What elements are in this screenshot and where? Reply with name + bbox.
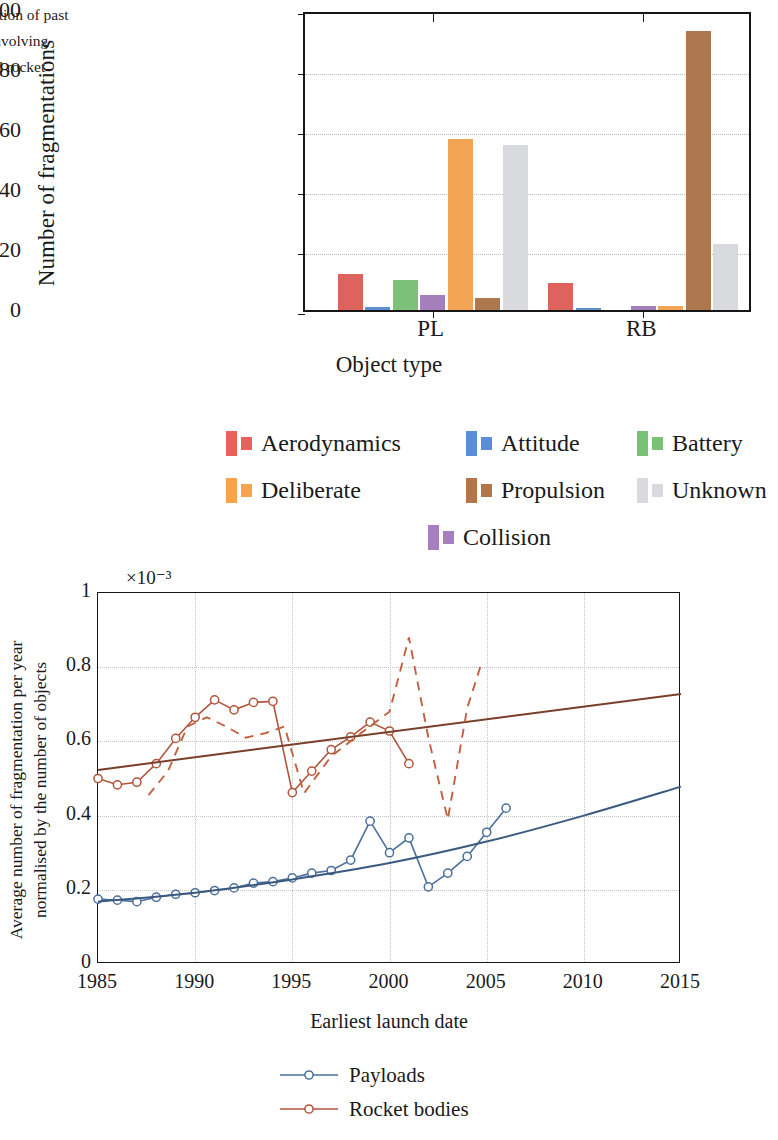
legend-swatch-small-icon [241,484,252,497]
legend-swatch-small-icon [443,531,454,544]
legend-label: Deliberate [261,477,361,504]
legend-item-battery[interactable]: Battery [637,430,743,457]
data-point-marker [288,788,296,796]
legend-swatch-tall-icon [226,478,237,503]
legend-label: Rocket bodies [349,1097,469,1122]
line-chart-y-tick-label: 1 [0,579,91,602]
data-point-marker [444,869,452,877]
data-point-marker [211,696,219,704]
bar-chart-plot-area [303,12,751,312]
data-point-marker [113,781,121,789]
legend-swatch-tall-icon [466,431,477,456]
line-chart-x-tick-label: 2000 [369,970,409,993]
data-point-marker [463,852,471,860]
bar-propulsion-pl [475,298,500,310]
legend-item-payloads[interactable]: Payloads [280,1058,778,1092]
line-chart-series-layer [98,593,681,964]
legend-swatch-small-icon [481,437,492,450]
bar-chart-y-tick-label: 100 [0,0,21,23]
bar-chart-x-tick-label-rb: RB [626,316,657,342]
series-rocket-bodies-dashed [149,638,481,820]
bar-chart-figure: Number of fragmentations Object type 020… [0,0,778,410]
bar-chart-x-tickmark-top [433,14,434,22]
legend-label: Propulsion [501,477,605,504]
bar-chart-y-tick-label: 40 [0,177,21,203]
data-point-marker [424,883,432,891]
bar-propulsion-rb [686,31,711,310]
legend-label: Aerodynamics [261,430,401,457]
line-chart-y-tick-label: 0.8 [0,653,91,676]
bar-chart-x-tickmark-top [643,14,644,22]
legend-item-aerodynamics[interactable]: Aerodynamics [226,430,401,457]
bar-chart-gridline [305,74,749,75]
legend-label: Unknown [672,477,767,504]
line-chart-x-tick-label: 2005 [466,970,506,993]
bar-chart-y-tick-label: 0 [0,297,21,323]
bar-attitude-rb [576,308,601,310]
bar-chart-y-tick-label: 80 [0,57,21,83]
line-chart-figure: Average number of fragmentation per year… [0,566,778,1140]
bar-deliberate-pl [448,139,473,310]
legend-item-propulsion[interactable]: Propulsion [466,477,605,504]
data-point-marker [191,713,199,721]
line-chart-y-tick-label: 0.2 [0,876,91,899]
bar-chart-x-tick-label-pl: PL [417,316,444,342]
legend-item-attitude[interactable]: Attitude [466,430,580,457]
bar-chart-y-tickmark [298,194,305,195]
legend-swatch-small-icon [481,484,492,497]
data-point-marker [308,767,316,775]
data-point-marker [502,804,510,812]
line-chart-x-tick-label: 1985 [77,970,117,993]
bar-chart-y-axis-title: Number of fragmentations [34,13,60,313]
data-point-marker [269,697,277,705]
bar-chart-y-tickmark [298,134,305,135]
legend-swatch-small-icon [241,437,252,450]
data-point-marker [327,745,335,753]
bar-chart-y-tickmark [298,74,305,75]
series-rocket-bodies-trend [98,694,681,770]
legend-swatch-tall-icon [637,478,648,503]
data-point-marker [405,760,413,768]
legend-swatch-small-icon [652,437,663,450]
line-chart-x-tick-label: 1995 [271,970,311,993]
bar-aerodynamics-rb [548,283,573,310]
legend-line-marker-icon [280,1068,338,1082]
data-point-marker [94,774,102,782]
data-point-marker [366,817,374,825]
line-chart-legend: PayloadsRocket bodies [0,1058,778,1126]
data-point-marker [385,849,393,857]
data-point-marker [172,734,180,742]
legend-item-rocket-bodies[interactable]: Rocket bodies [280,1092,778,1126]
bar-chart-y-tickmark [298,14,305,15]
bar-chart-gridline [305,134,749,135]
legend-label: Payloads [349,1063,425,1088]
data-point-marker [249,698,257,706]
series-payloads-trend [98,787,681,902]
legend-label: Battery [672,430,743,457]
bar-unknown-rb [713,244,738,310]
line-chart-axis-multiplier: ×10⁻³ [126,566,171,589]
legend-line-marker-icon [280,1102,338,1116]
bar-deliberate-rb [658,306,683,311]
bar-chart-x-axis-title: Object type [0,352,778,378]
legend-item-unknown[interactable]: Unknown [637,477,767,504]
bar-collision-pl [420,295,445,310]
bar-chart-y-tick-label: 20 [0,237,21,263]
data-point-marker [483,828,491,836]
legend-item-collision[interactable]: Collision [428,524,551,551]
line-chart-x-tick-label: 1990 [174,970,214,993]
series-payloads [98,808,506,901]
bar-chart-y-tickmark [298,314,305,315]
bar-unknown-pl [503,145,528,310]
line-chart-plot-area [97,592,680,963]
data-point-marker [347,856,355,864]
bar-chart-y-tickmark [298,254,305,255]
legend-item-deliberate[interactable]: Deliberate [226,477,361,504]
legend-label: Collision [463,524,551,551]
line-chart-x-tick-label: 2015 [660,970,700,993]
data-point-marker [405,834,413,842]
series-rocket-bodies [98,700,409,793]
data-point-marker [230,706,238,714]
bar-chart-legend: AerodynamicsAttitudeBatteryDeliberatePro… [0,420,778,550]
line-chart-y-tick-label: 0.4 [0,802,91,825]
